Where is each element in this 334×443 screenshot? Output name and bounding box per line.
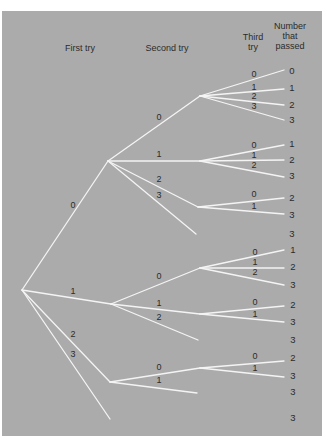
third-try-label: 3	[251, 101, 256, 111]
passed-count: 3	[290, 280, 295, 290]
passed-count: 0	[289, 66, 294, 76]
passed-count: 3	[289, 171, 294, 181]
third-try-label: 2	[251, 91, 256, 101]
first-try-label: 2	[70, 329, 75, 339]
third-try-label: 1	[251, 201, 256, 211]
second-try-label: 1	[156, 298, 161, 308]
passed-count: 2	[290, 300, 295, 310]
second-try-branch	[108, 161, 198, 207]
passed-count: 2	[289, 155, 294, 165]
second-try-label: 0	[156, 271, 161, 281]
third-try-label: 2	[252, 267, 257, 277]
tree-branches	[0, 0, 334, 443]
second-try-branch	[108, 161, 196, 234]
passed-count: 3	[289, 210, 294, 220]
second-try-label: 0	[156, 362, 161, 372]
passed-count: 2	[290, 353, 295, 363]
second-try-branch	[110, 382, 197, 393]
passed-count: 3	[290, 413, 295, 423]
second-try-label: 2	[156, 174, 161, 184]
third-try-branch	[200, 96, 284, 105]
first-try-branch	[22, 161, 108, 290]
third-try-label: 1	[251, 150, 256, 160]
second-try-branch	[108, 96, 200, 161]
third-try-label: 1	[252, 309, 257, 319]
first-try-branch	[22, 290, 110, 382]
third-try-branch	[200, 160, 284, 161]
third-try-branch	[200, 250, 284, 268]
passed-count: 3	[290, 371, 295, 381]
first-try-branch	[22, 290, 111, 304]
passed-count: 3	[290, 317, 295, 327]
third-try-branch	[200, 306, 284, 314]
third-try-label: 0	[251, 140, 256, 150]
second-try-branch	[110, 368, 200, 382]
passed-count: 2	[290, 262, 295, 272]
header-first-try: First try	[65, 43, 95, 53]
third-try-branch	[200, 368, 284, 377]
third-try-branch	[200, 361, 284, 368]
second-try-label: 0	[156, 112, 161, 122]
passed-count: 1	[289, 139, 294, 149]
third-try-branch	[198, 198, 284, 207]
third-try-branch	[200, 314, 284, 322]
third-try-label: 0	[251, 69, 256, 79]
third-try-label: 0	[252, 297, 257, 307]
third-try-label: 0	[252, 247, 257, 257]
third-try-label: 1	[252, 363, 257, 373]
third-try-branch	[200, 161, 284, 177]
third-try-label: 2	[251, 160, 256, 170]
second-try-label: 2	[156, 312, 161, 322]
passed-count: 2	[289, 193, 294, 203]
header-number-passed: Number that passed	[270, 21, 310, 51]
second-try-label: 1	[156, 375, 161, 385]
passed-count: 2	[289, 100, 294, 110]
passed-count: 3	[289, 115, 294, 125]
passed-count: 3	[289, 229, 294, 239]
header-third-try: Third try	[241, 32, 265, 52]
third-try-branch	[200, 145, 284, 161]
second-try-label: 3	[156, 190, 161, 200]
third-try-branch	[200, 268, 284, 285]
first-try-label: 0	[70, 200, 75, 210]
third-try-label: 1	[252, 257, 257, 267]
third-try-branch	[198, 207, 284, 214]
passed-count: 3	[290, 335, 295, 345]
third-try-label: 0	[252, 351, 257, 361]
first-try-branch	[22, 290, 110, 419]
header-second-try: Second try	[145, 43, 188, 53]
passed-count: 1	[289, 83, 294, 93]
passed-count: 1	[290, 245, 295, 255]
second-try-label: 1	[156, 149, 161, 159]
passed-count: 3	[290, 387, 295, 397]
first-try-label: 1	[70, 286, 75, 296]
third-try-label: 0	[251, 189, 256, 199]
first-try-label: 3	[70, 349, 75, 359]
third-try-branch	[200, 96, 284, 120]
